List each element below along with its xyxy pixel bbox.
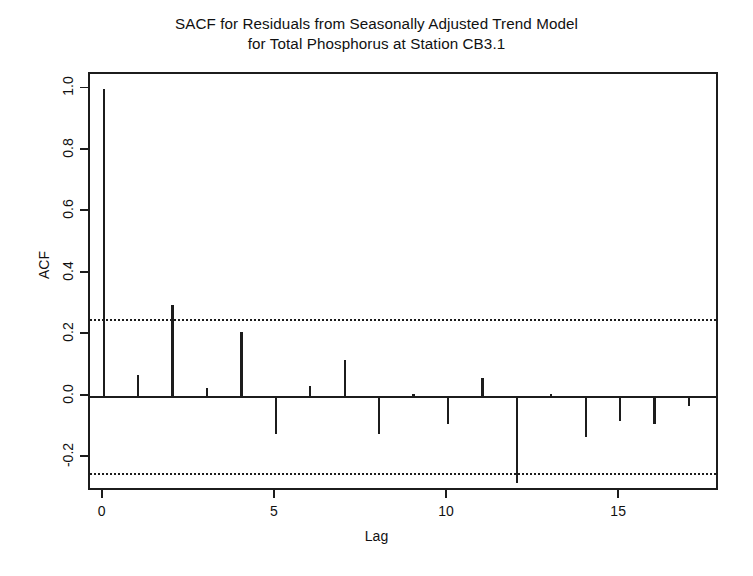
y-tick-label: 1.0 (60, 63, 76, 109)
confidence-band-lower (90, 473, 716, 475)
x-tick-label: 15 (593, 503, 643, 519)
x-tick-label: 0 (77, 503, 127, 519)
y-tick-label: 0.2 (60, 309, 76, 355)
y-tick-label: 0.0 (60, 371, 76, 417)
acf-spike-lag-7 (344, 360, 346, 397)
confidence-band-upper (90, 319, 716, 321)
y-axis-title: ACF (36, 235, 52, 295)
plot-area (88, 72, 718, 490)
acf-spike-lag-8 (378, 397, 380, 434)
chart-title-line-2: for Total Phosphorus at Station CB3.1 (0, 34, 753, 54)
acf-spike-lag-4 (240, 332, 242, 397)
chart-title-line-1: SACF for Residuals from Seasonally Adjus… (0, 14, 753, 34)
acf-spike-lag-1 (137, 375, 139, 397)
plot-inner (90, 74, 716, 488)
acf-spike-lag-17 (688, 397, 690, 406)
y-tick-mark (80, 271, 88, 273)
acf-spike-lag-11 (481, 378, 483, 396)
acf-chart-figure: SACF for Residuals from Seasonally Adjus… (0, 0, 753, 576)
acf-spike-lag-15 (619, 397, 621, 422)
y-tick-label: 0.6 (60, 186, 76, 232)
chart-title: SACF for Residuals from Seasonally Adjus… (0, 14, 753, 54)
acf-spike-lag-16 (653, 397, 655, 425)
x-tick-label: 5 (249, 503, 299, 519)
acf-spike-lag-0 (103, 89, 105, 396)
acf-spike-lag-3 (206, 388, 208, 397)
acf-spike-lag-2 (171, 305, 173, 397)
x-tick-mark (445, 490, 447, 498)
x-tick-label: 10 (421, 503, 471, 519)
x-tick-mark (101, 490, 103, 498)
y-tick-mark (80, 394, 88, 396)
acf-spike-lag-6 (309, 386, 311, 397)
y-tick-mark (80, 87, 88, 89)
acf-spike-lag-10 (447, 397, 449, 425)
y-tick-label: 0.4 (60, 248, 76, 294)
y-tick-mark (80, 148, 88, 150)
y-tick-mark (80, 209, 88, 211)
acf-spike-lag-5 (275, 397, 277, 434)
acf-spike-lag-14 (585, 397, 587, 437)
acf-spike-lag-12 (516, 397, 518, 483)
x-tick-mark (273, 490, 275, 498)
acf-spike-lag-9 (412, 394, 414, 397)
y-tick-mark (80, 332, 88, 334)
acf-spike-lag-13 (550, 394, 552, 397)
y-tick-label: -0.2 (60, 432, 76, 478)
y-tick-label: 0.8 (60, 125, 76, 171)
zero-line (90, 396, 716, 398)
x-tick-mark (617, 490, 619, 498)
y-tick-mark (80, 455, 88, 457)
x-axis-title: Lag (0, 528, 753, 544)
